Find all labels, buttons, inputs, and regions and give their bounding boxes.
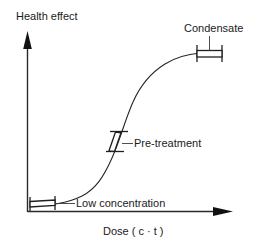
axes-group xyxy=(23,31,233,216)
marker-condensate xyxy=(197,36,222,62)
marker-low-concentration xyxy=(30,196,75,211)
sigmoid-curve xyxy=(33,53,200,207)
y-axis-title: Health effect xyxy=(16,10,78,22)
x-axis-title: Dose ( c · t ) xyxy=(103,225,164,237)
x-axis-arrow-icon xyxy=(213,207,233,216)
dose-response-figure: Low concentration Pre-treatment Condensa… xyxy=(0,0,259,245)
low-concentration-label: Low concentration xyxy=(76,197,165,209)
condensate-label: Condensate xyxy=(184,22,243,34)
curve-group xyxy=(33,53,200,207)
condensate-box xyxy=(197,51,222,58)
pre-treatment-box xyxy=(109,132,121,152)
marker-pre-treatment xyxy=(106,132,133,152)
pre-treatment-label: Pre-treatment xyxy=(134,137,201,149)
dose-response-chart: Low concentration Pre-treatment Condensa… xyxy=(0,0,259,245)
low-conc-box xyxy=(30,200,55,207)
y-axis-arrow-icon xyxy=(23,31,32,49)
